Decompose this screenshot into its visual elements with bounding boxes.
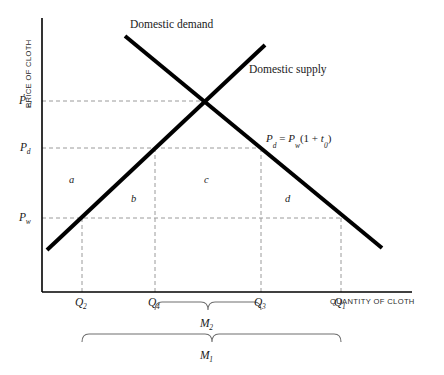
quantity-label-q2: Q2 (75, 296, 87, 308)
price-label-pd-prime-sub: d (28, 100, 32, 109)
brace-label-m1-sub: 1 (209, 355, 213, 364)
price-label-pd-prime: P′d (19, 94, 32, 106)
brace-m1 (82, 334, 341, 342)
brace-m2 (155, 302, 261, 310)
brace-label-m2-sub: 2 (209, 323, 213, 332)
price-label-pw-sub: w (26, 217, 31, 226)
tariff-supply-demand-figure: PRICE OF CLOTH QUANTITY OF CLOTH Domesti… (0, 0, 444, 375)
equation-tariff-sub: 0 (324, 141, 328, 150)
equation-lhs-sub: d (273, 141, 277, 150)
region-label-a: a (69, 174, 74, 185)
equation-close-paren: ) (328, 132, 332, 144)
brace-label-m1: M1 (200, 349, 213, 361)
quantity-label-q4: Q4 (148, 296, 160, 308)
equation-equals: = (276, 132, 288, 144)
price-label-pw-base: P (19, 211, 26, 223)
price-label-pd-base: P (20, 141, 27, 153)
quantity-label-q1: Q1 (334, 296, 346, 308)
price-label-pw: Pw (19, 211, 31, 223)
region-label-d: d (285, 193, 290, 204)
tariff-price-equation: Pd = Pw(1 + t0) (266, 132, 331, 147)
price-label-pd: Pd (20, 141, 31, 153)
quantity-label-q3: Q3 (254, 296, 266, 308)
region-label-c: c (204, 174, 209, 185)
quantity-label-q3-sub: 3 (262, 302, 266, 311)
equation-lhs-base: P (266, 132, 273, 144)
domestic-demand-label: Domestic demand (130, 18, 213, 30)
equation-open-paren: (1 + (300, 132, 321, 144)
domestic-supply-label: Domestic supply (249, 63, 327, 75)
guide-lines (42, 101, 341, 292)
region-label-b: b (131, 193, 136, 204)
price-label-pd-sub: d (27, 147, 31, 156)
quantity-label-q2-sub: 2 (83, 302, 87, 311)
brace-label-m2: M2 (200, 317, 213, 329)
figure-canvas (0, 0, 444, 375)
quantity-label-q4-sub: 4 (156, 302, 160, 311)
axis-lines (42, 18, 412, 292)
equation-rhs-base: P (288, 132, 295, 144)
price-label-pd-prime-mark: ′ (23, 92, 25, 103)
quantity-label-q1-sub: 1 (342, 302, 346, 311)
equation-rhs-sub: w (295, 141, 300, 150)
